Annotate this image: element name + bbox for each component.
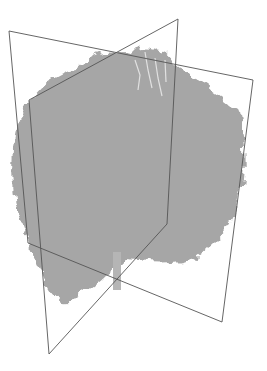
- tree-trunk: [113, 252, 121, 290]
- tree-canopy: [12, 48, 245, 302]
- tree-volume-render: [0, 0, 267, 371]
